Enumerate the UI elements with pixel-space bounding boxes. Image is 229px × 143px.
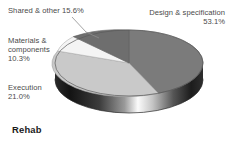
pie-label-execution: Execution 21.0% xyxy=(8,83,42,101)
pie-chart-figure: Shared & other 15.6% Design & specificat… xyxy=(0,0,229,143)
pie-label-shared-other: Shared & other 15.6% xyxy=(8,6,84,15)
pie-label-design-specification: Design & specification 53.1% xyxy=(149,8,225,26)
pie-label-materials-components: Materials & components 10.3% xyxy=(8,36,50,64)
chart-title: Rehab xyxy=(12,124,42,135)
